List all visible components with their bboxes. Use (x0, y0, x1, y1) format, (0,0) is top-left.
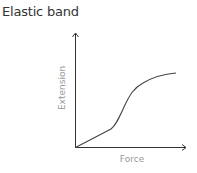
chart-plot: Force Extension (0, 0, 197, 173)
x-axis (76, 145, 187, 151)
y-axis-label: Extension (57, 66, 67, 110)
x-axis-label: Force (120, 154, 145, 164)
data-curve (76, 73, 177, 148)
y-axis (73, 33, 79, 148)
